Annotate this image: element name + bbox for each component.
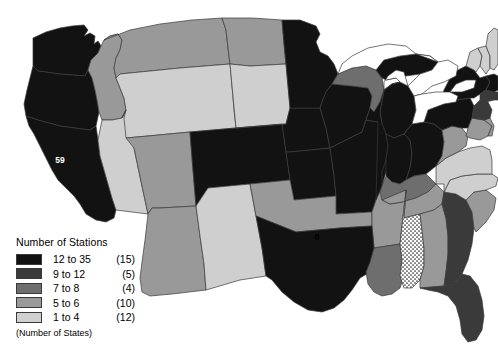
legend-range-3: 5 to 6 <box>53 297 105 309</box>
legend-row[interactable]: 5 to 6 (10) <box>16 296 196 310</box>
legend-count-3: (10) <box>105 297 135 309</box>
legend-range-2: 7 to 8 <box>53 282 105 294</box>
legend-row[interactable]: 9 to 12 (5) <box>16 267 196 281</box>
legend-range-1: 9 to 12 <box>53 268 105 280</box>
legend-swatch-3 <box>16 297 42 308</box>
state-RI[interactable] <box>494 92 498 100</box>
legend-swatch-0 <box>16 254 42 265</box>
state-TX[interactable] <box>256 216 376 312</box>
legend-count-0: (15) <box>105 253 135 265</box>
map-label-california: 59 <box>55 155 65 165</box>
state-AL[interactable] <box>420 204 448 288</box>
legend-row[interactable]: 1 to 4 (12) <box>16 310 196 324</box>
legend-title: Number of Stations <box>16 236 196 248</box>
legend-swatch-2 <box>16 283 42 294</box>
state-ND[interactable] <box>222 18 286 66</box>
legend-row[interactable]: 7 to 8 (4) <box>16 281 196 295</box>
state-KS[interactable] <box>286 148 336 200</box>
legend-swatch-1 <box>16 268 42 279</box>
map-legend: Number of Stations 12 to 35 (15) 9 to 12… <box>16 236 196 338</box>
legend-count-1: (5) <box>105 268 135 280</box>
legend-footnote: (Number of States) <box>16 328 196 338</box>
legend-count-2: (4) <box>105 282 135 294</box>
choropleth-map-figure: 59 0 Number of Stations 12 to 35 (15) 9 … <box>0 0 498 355</box>
legend-row[interactable]: 12 to 35 (15) <box>16 252 196 266</box>
state-WY[interactable] <box>116 64 236 138</box>
state-SD[interactable] <box>230 64 290 128</box>
legend-swatch-4 <box>16 312 42 323</box>
legend-count-4: (12) <box>105 311 135 323</box>
legend-range-0: 12 to 35 <box>53 253 105 265</box>
legend-range-4: 1 to 4 <box>53 311 105 323</box>
state-NJ[interactable] <box>472 100 492 120</box>
map-label-mississippi: 0 <box>315 232 320 242</box>
